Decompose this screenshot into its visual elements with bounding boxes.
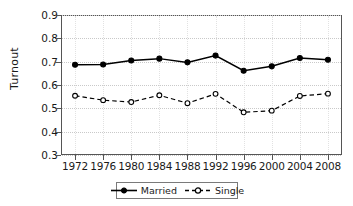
x-axis-tick-mark [244, 155, 245, 160]
x-axis-tick-label: 2000 [259, 160, 285, 172]
x-axis-tick-mark [300, 155, 301, 160]
x-axis-tick-mark [131, 155, 132, 160]
x-axis-tick-mark [328, 155, 329, 160]
gridline-x [328, 16, 329, 154]
legend: Married Single [116, 182, 238, 199]
gridline-x [187, 16, 188, 154]
gridline-x [159, 16, 160, 154]
gridline-x [103, 16, 104, 154]
legend-label-single: Single [215, 185, 244, 196]
x-axis-tick-label: 1976 [90, 160, 116, 172]
chart-root: Turnout 0.30.40.50.60.70.80.9 1972197619… [0, 0, 353, 206]
plot-area [61, 15, 342, 155]
x-axis-tick-label: 2008 [315, 160, 341, 172]
legend-entry-single[interactable]: Single [184, 185, 244, 196]
y-axis-tick-mark [55, 155, 61, 156]
y-axis-tick-mark [55, 62, 61, 63]
y-axis-tick-mark [55, 85, 61, 86]
gridline-x [300, 16, 301, 154]
x-axis-tick-label: 1980 [118, 160, 144, 172]
x-axis-tick-mark [103, 155, 104, 160]
gridline-x [216, 16, 217, 154]
x-axis-tick-mark [216, 155, 217, 160]
gridline-x [244, 16, 245, 154]
legend-entry-married[interactable]: Married [110, 185, 177, 196]
x-axis-tick-mark [272, 155, 273, 160]
gridline-x [272, 16, 273, 154]
y-axis-tick-mark [55, 38, 61, 39]
x-axis-tick-label: 1992 [203, 160, 229, 172]
x-axis-tick-mark [187, 155, 188, 160]
x-axis-tick-label: 1988 [174, 160, 200, 172]
x-axis-tick-mark [75, 155, 76, 160]
gridline-x [75, 16, 76, 154]
y-axis-title: Turnout [8, 29, 21, 109]
x-axis-tick-label: 1984 [146, 160, 172, 172]
x-axis-tick-label: 1972 [62, 160, 88, 172]
x-axis-tick-mark [159, 155, 160, 160]
y-axis-tick-mark [55, 108, 61, 109]
legend-symbol-single-icon [184, 185, 212, 196]
x-axis-tick-label: 1996 [231, 160, 257, 172]
y-axis-tick-mark [55, 132, 61, 133]
x-axis-tick-label: 2004 [287, 160, 313, 172]
legend-label-married: Married [141, 185, 177, 196]
y-axis-tick-mark [55, 15, 61, 16]
legend-symbol-married-icon [110, 185, 138, 196]
gridline-x [131, 16, 132, 154]
